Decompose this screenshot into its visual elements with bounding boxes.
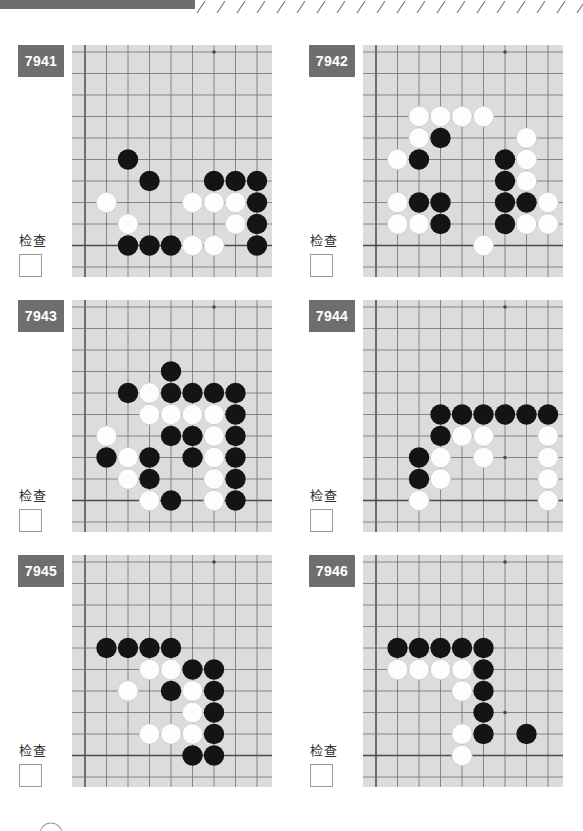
check-checkbox[interactable] <box>19 764 42 787</box>
puzzle-sidebar-7943: 7943 检查 <box>18 300 72 532</box>
check-label: 检查 <box>19 230 69 249</box>
puzzle-number-badge: 7945 <box>18 555 64 587</box>
top-hatch-decoration <box>195 0 583 15</box>
check-label: 检查 <box>310 230 360 249</box>
check-control-7941[interactable]: 检查 <box>19 230 69 277</box>
check-label: 检查 <box>19 485 69 504</box>
check-checkbox[interactable] <box>310 764 333 787</box>
puzzle-row: 7945 检查 7946 检查 <box>0 555 583 810</box>
check-control-7942[interactable]: 检查 <box>310 230 360 277</box>
top-decoration-bar <box>0 0 195 9</box>
check-checkbox[interactable] <box>310 509 333 532</box>
check-control-7944[interactable]: 检查 <box>310 485 360 532</box>
check-label: 检查 <box>310 485 360 504</box>
puzzle-number-badge: 7946 <box>309 555 355 587</box>
go-board-7946[interactable] <box>363 555 563 787</box>
puzzle-row: 7943 检查 7944 检查 <box>0 300 583 555</box>
puzzle-7945: 7945 检查 <box>0 555 291 810</box>
go-board-7945[interactable] <box>72 555 272 787</box>
page-bottom-arc-decoration <box>38 818 64 831</box>
go-board-7943[interactable] <box>72 300 272 532</box>
puzzle-number-badge: 7944 <box>309 300 355 332</box>
go-board-7941[interactable] <box>72 45 272 277</box>
puzzle-number-badge: 7941 <box>18 45 64 77</box>
check-checkbox[interactable] <box>310 254 333 277</box>
puzzle-sidebar-7941: 7941 检查 <box>18 45 72 277</box>
check-control-7945[interactable]: 检查 <box>19 740 69 787</box>
check-label: 检查 <box>19 740 69 759</box>
puzzle-sidebar-7945: 7945 检查 <box>18 555 72 787</box>
puzzle-sidebar-7942: 7942 检查 <box>309 45 363 277</box>
puzzle-row: 7941 检查 7942 检查 <box>0 45 583 300</box>
puzzle-number-badge: 7943 <box>18 300 64 332</box>
check-label: 检查 <box>310 740 360 759</box>
puzzle-7941: 7941 检查 <box>0 45 291 300</box>
puzzle-sidebar-7944: 7944 检查 <box>309 300 363 532</box>
puzzle-7942: 7942 检查 <box>291 45 582 300</box>
go-board-7942[interactable] <box>363 45 563 277</box>
check-checkbox[interactable] <box>19 509 42 532</box>
puzzle-7944: 7944 检查 <box>291 300 582 555</box>
check-control-7946[interactable]: 检查 <box>310 740 360 787</box>
worksheet-page: 7941 检查 7942 检查 <box>0 0 583 831</box>
puzzle-7946: 7946 检查 <box>291 555 582 810</box>
puzzle-sidebar-7946: 7946 检查 <box>309 555 363 787</box>
puzzle-grid: 7941 检查 7942 检查 <box>0 45 583 810</box>
puzzle-7943: 7943 检查 <box>0 300 291 555</box>
go-board-7944[interactable] <box>363 300 563 532</box>
hatch-icon <box>195 0 583 15</box>
puzzle-number-badge: 7942 <box>309 45 355 77</box>
check-checkbox[interactable] <box>19 254 42 277</box>
check-control-7943[interactable]: 检查 <box>19 485 69 532</box>
